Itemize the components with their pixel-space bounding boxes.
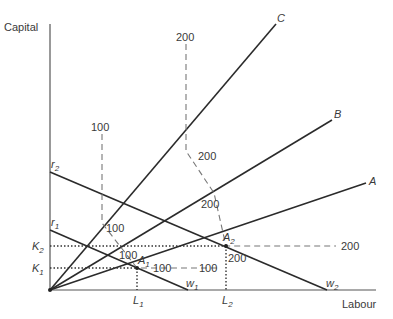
isoquant-200 — [186, 44, 336, 246]
isocost-line-2 — [50, 172, 327, 290]
l2-label: L2 — [222, 294, 233, 309]
isoquant-200-label-ray-c: 200 — [198, 150, 216, 162]
ray-b-label: B — [334, 108, 341, 120]
point-a2 — [224, 244, 228, 248]
x-axis-label: Labour — [342, 298, 377, 310]
isoquant-200-label-ray-b: 200 — [201, 198, 219, 210]
ray-c-label: C — [277, 12, 285, 24]
ray-a-label: A — [368, 175, 376, 187]
isoquant-100-label-ray-b: 100 — [119, 249, 137, 261]
isoquant-100-label-ray-c: 100 — [106, 222, 124, 234]
isoquant-200-label-end: 200 — [341, 240, 359, 252]
ray-b — [50, 120, 332, 290]
point-a1 — [135, 266, 139, 270]
production-isoquant-diagram: Capital Labour C B A r2 r1 w1 w2 100 100… — [0, 0, 393, 319]
a2-label: A2 — [222, 231, 235, 246]
r1-label: r1 — [51, 216, 59, 231]
k1-label: K1 — [32, 262, 44, 277]
isoquant-200-label-below-a2: 200 — [228, 252, 246, 264]
ray-c — [50, 24, 276, 290]
isoquant-200-label-top: 200 — [176, 31, 194, 43]
isoquant-100-label-end: 100 — [199, 262, 217, 274]
r2-label: r2 — [51, 158, 60, 173]
origin-point — [48, 288, 52, 292]
isoquant-100-label-ray-a: 100 — [153, 262, 171, 274]
k2-label: K2 — [32, 240, 44, 255]
isoquant-100-label-top: 100 — [91, 121, 109, 133]
y-axis-label: Capital — [4, 21, 38, 33]
l1-label: L1 — [133, 294, 144, 309]
